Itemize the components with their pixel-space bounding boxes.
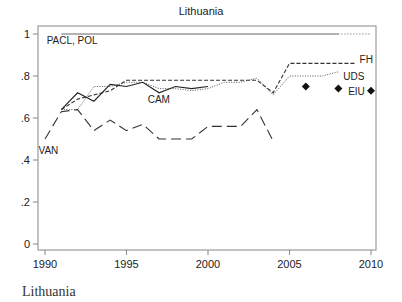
series-label: EIU	[348, 86, 365, 97]
van-series	[45, 110, 273, 142]
lithuania-chart: Lithuania0.2.4.6.8119901995200020052010P…	[0, 0, 402, 302]
cam-series	[61, 82, 208, 109]
y-tick-label: .6	[21, 112, 30, 124]
eiu-diamond-marker	[367, 87, 375, 95]
plot-frame	[38, 26, 376, 250]
x-tick-label: 2005	[277, 258, 301, 270]
y-tick-label: .8	[21, 70, 30, 82]
series-label: UDS	[343, 71, 364, 82]
y-tick-label: 0	[24, 238, 30, 250]
series-label: CAM	[148, 94, 170, 105]
x-tick-label: 1995	[114, 258, 138, 270]
y-tick-label: .4	[21, 154, 30, 166]
y-tick-label: 1	[24, 28, 30, 40]
eiu-diamond-marker	[334, 85, 342, 93]
uds-series	[61, 72, 338, 110]
chart-title: Lithuania	[179, 5, 225, 17]
eiu-diamond-marker	[302, 83, 310, 91]
series-label: PACL, POL	[47, 35, 98, 46]
series-label: FH	[360, 54, 373, 65]
x-tick-label: 2010	[359, 258, 383, 270]
x-tick-label: 2000	[196, 258, 220, 270]
figure-caption: Lithuania	[22, 284, 76, 300]
y-tick-label: .2	[21, 196, 30, 208]
series-label: VAN	[38, 145, 58, 156]
x-tick-label: 1990	[33, 258, 57, 270]
